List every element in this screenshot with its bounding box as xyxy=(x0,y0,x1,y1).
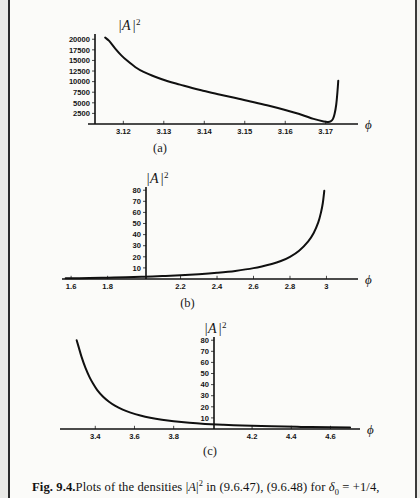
x-tick-label: 3.13 xyxy=(156,127,171,136)
x-tick-label: 3.16 xyxy=(278,127,293,136)
subplot-label-b: (b) xyxy=(10,296,365,311)
figure-caption-equation: = +1/4, xyxy=(339,480,380,494)
svg-text:A: A xyxy=(149,171,159,186)
y-tick-label: 70 xyxy=(133,197,141,206)
x-tick-label: 3 xyxy=(324,282,328,291)
svg-text:2: 2 xyxy=(164,170,169,180)
x-tick-label: 1.8 xyxy=(102,282,113,291)
y-tick-label: 80 xyxy=(201,336,209,345)
x-tick-label: 3.8 xyxy=(168,432,179,441)
x-tick-label: 1.6 xyxy=(66,282,77,291)
plot-b-y-ticks: 1020304050607080 xyxy=(133,186,146,273)
plot-c-x-axis-label: ϕ xyxy=(367,422,374,437)
figure-caption: Fig. 9.4.Plots of the densities |A|2 in … xyxy=(32,476,414,498)
svg-text:A: A xyxy=(207,321,217,336)
y-tick-label: 40 xyxy=(133,230,141,239)
subplot-label-c: (c) xyxy=(10,444,410,459)
plot-a-curve xyxy=(105,38,338,122)
plot-b: | A | 2 1020304050607080 1.61.82.22.42.6… xyxy=(10,167,415,295)
x-tick-label: 3.4 xyxy=(90,432,101,441)
x-tick-label: 3.14 xyxy=(197,127,213,136)
y-tick-label: 17500 xyxy=(69,46,90,55)
y-tick-label: 15000 xyxy=(69,56,90,65)
plot-a-svg: | A | 2 25005000750010000125001500017500… xyxy=(10,14,415,142)
plot-c-yaxis-title: | A | 2 xyxy=(204,320,227,336)
plot-a-x-axis-label: ϕ xyxy=(365,117,372,132)
y-tick-label: 50 xyxy=(133,219,141,228)
svg-text:2: 2 xyxy=(136,17,141,27)
plot-a: | A | 2 25005000750010000125001500017500… xyxy=(10,14,415,142)
y-tick-label: 50 xyxy=(201,369,209,378)
svg-text:2: 2 xyxy=(222,320,227,330)
x-tick-label: 3.6 xyxy=(129,432,140,441)
figure-caption-label: Fig. 9.4. xyxy=(32,480,76,494)
x-tick-label: 2.2 xyxy=(175,282,186,291)
y-tick-label: 40 xyxy=(201,380,209,389)
figure-caption-text-1: Plots of the densities xyxy=(76,480,186,494)
y-tick-label: 7500 xyxy=(73,88,90,97)
page-gutter-right xyxy=(415,0,420,498)
plot-b-curve xyxy=(66,191,325,279)
y-tick-label: 20 xyxy=(201,403,209,412)
y-tick-label: 80 xyxy=(133,186,141,195)
y-tick-label: 30 xyxy=(133,241,141,250)
y-tick-label: 60 xyxy=(133,208,141,217)
x-tick-label: 2.8 xyxy=(285,282,296,291)
y-tick-label: 20 xyxy=(133,253,141,262)
y-tick-label: 70 xyxy=(201,347,209,356)
y-tick-label: 5000 xyxy=(73,99,90,108)
figure-caption-math-modulus: |A|2 xyxy=(186,480,203,494)
x-tick-label: 3.15 xyxy=(237,127,253,136)
y-tick-label: 20000 xyxy=(69,35,90,44)
page-gutter-left xyxy=(0,0,10,498)
plot-c-svg: | A | 2 1020304050607080 3.43.63.84.24.4… xyxy=(10,318,415,448)
plot-b-svg: | A | 2 1020304050607080 1.61.82.22.42.6… xyxy=(10,167,415,295)
y-tick-label: 2500 xyxy=(73,109,90,118)
subplot-label-a: (a) xyxy=(10,141,310,156)
x-tick-label: 4.6 xyxy=(325,432,336,441)
x-tick-label: 2.4 xyxy=(212,282,223,291)
plot-b-x-axis-label: ϕ xyxy=(365,272,372,287)
figure-9-4: | A | 2 25005000750010000125001500017500… xyxy=(10,0,415,498)
plot-c-y-ticks: 1020304050607080 xyxy=(201,336,214,423)
x-tick-label: 3.17 xyxy=(318,127,333,136)
plot-c-x-ticks: 3.43.63.84.24.44.6 xyxy=(90,426,336,441)
figure-caption-math-delta: δ0 xyxy=(329,480,339,494)
y-tick-label: 12500 xyxy=(69,67,90,76)
svg-text:A: A xyxy=(121,18,131,33)
plot-c: | A | 2 1020304050607080 3.43.63.84.24.4… xyxy=(10,318,415,448)
x-tick-label: 4.4 xyxy=(286,432,297,441)
x-tick-label: 2.6 xyxy=(248,282,259,291)
figure-caption-text-2: in (9.6.47), (9.6.48) for xyxy=(203,480,329,494)
plot-a-x-ticks: 3.123.133.143.153.163.17 xyxy=(116,121,333,136)
plot-b-yaxis-title: | A | 2 xyxy=(146,170,169,186)
y-tick-label: 30 xyxy=(201,391,209,400)
y-tick-label: 10000 xyxy=(69,77,90,86)
x-tick-label: 3.12 xyxy=(116,127,131,136)
plot-a-yaxis-title: | A | 2 xyxy=(118,17,141,33)
y-tick-label: 10 xyxy=(133,264,141,273)
y-tick-label: 60 xyxy=(201,358,209,367)
plot-a-y-ticks: 2500500075001000012500150001750020000 xyxy=(69,35,95,118)
y-tick-label: 10 xyxy=(201,414,209,423)
x-tick-label: 4.2 xyxy=(247,432,258,441)
